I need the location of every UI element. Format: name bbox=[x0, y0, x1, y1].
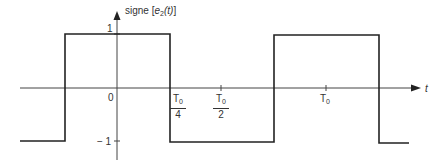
x-axis-arrow-icon bbox=[411, 85, 421, 92]
t0-2-numerator: T0 bbox=[213, 94, 229, 109]
t0-4-numerator: T0 bbox=[170, 94, 186, 109]
y-axis-label: signe [e2(t)] bbox=[125, 6, 176, 19]
origin-label: 0 bbox=[108, 93, 114, 103]
y-axis-arrow-icon bbox=[114, 11, 121, 20]
t0-2-denominator: 2 bbox=[213, 109, 229, 120]
y-tick-label-minus-1: − 1 bbox=[97, 137, 111, 147]
x-axis-label: t bbox=[425, 84, 428, 94]
t0-4-num-sub: 0 bbox=[179, 98, 183, 105]
y-axis-label-text: signe [ bbox=[125, 5, 154, 16]
y-axis-label-arg: (t) bbox=[164, 5, 173, 16]
t0-4-denominator: 4 bbox=[170, 109, 186, 120]
x-tick-label-t0-2: T0 2 bbox=[213, 94, 229, 120]
y-axis-label-close: ] bbox=[173, 5, 176, 16]
y-tick-label-1: 1 bbox=[107, 24, 113, 34]
t0-2-num-sub: 0 bbox=[222, 98, 226, 105]
x-tick-label-t0: T0 bbox=[320, 94, 330, 107]
chart-canvas bbox=[0, 0, 440, 168]
t0-sub: 0 bbox=[326, 98, 330, 105]
x-tick-label-t0-4: T0 4 bbox=[170, 94, 186, 120]
